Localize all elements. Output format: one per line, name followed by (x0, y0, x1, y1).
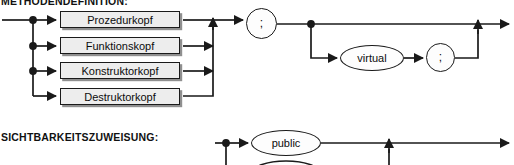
box-label: Destruktorkopf (84, 91, 156, 103)
alternative-box-destruktorkopf[interactable]: Destruktorkopf (60, 88, 180, 105)
terminal-semicolon-2[interactable]: ; (426, 43, 455, 72)
terminal-label: ; (260, 17, 263, 29)
terminal-label: virtual (357, 52, 386, 64)
terminal-label: ; (439, 51, 442, 63)
terminal-label: public (272, 137, 301, 149)
box-label: Funktionskopf (86, 40, 154, 52)
alternative-box-funktionskopf[interactable]: Funktionskopf (60, 37, 180, 54)
alternative-box-konstruktorkopf[interactable]: Konstruktorkopf (60, 62, 180, 79)
clipped-alternative-node (251, 161, 321, 165)
alternative-box-prozedurkopf[interactable]: Prozedurkopf (60, 11, 180, 28)
box-label: Konstruktorkopf (81, 65, 158, 77)
terminal-semicolon-1[interactable]: ; (246, 8, 277, 39)
syntax-diagram: METHODENDEFINITION: SICHTBARKEITSZUWEISU… (0, 0, 514, 165)
terminal-virtual[interactable]: virtual (340, 45, 404, 71)
box-label: Prozedurkopf (87, 14, 152, 26)
junction-dots (29, 16, 315, 147)
terminal-public[interactable]: public (251, 130, 321, 156)
